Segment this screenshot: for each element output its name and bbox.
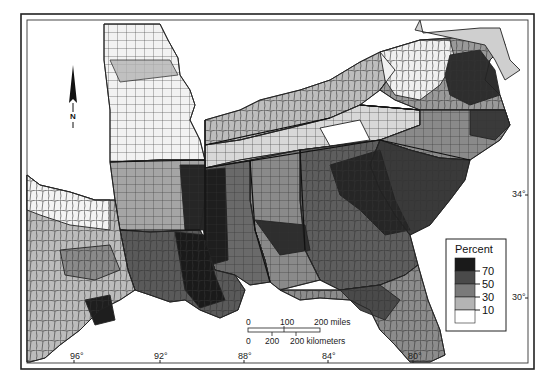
- north-label: N: [70, 112, 76, 121]
- lon-92: 92°: [154, 351, 168, 361]
- scale-km-label: 200 kilometers: [290, 336, 345, 346]
- lat-30: 30°: [512, 292, 526, 302]
- choropleth-map: N 0 100 200 miles 0 200 200 kilometers 9…: [0, 0, 556, 383]
- scale-miles-100: 100: [280, 317, 294, 327]
- legend-tick-30: 30: [482, 291, 494, 303]
- legend-swatch-over-70: [455, 258, 475, 271]
- legend-swatch-30-50: [455, 284, 475, 297]
- lon-80: 80°: [408, 351, 422, 361]
- scale-miles-200: 200 miles: [314, 317, 350, 327]
- lat-34: 34°: [512, 189, 526, 199]
- legend-tick-10: 10: [482, 304, 494, 316]
- legend-tick-50: 50: [482, 278, 494, 290]
- scale-miles-0: 0: [246, 317, 251, 327]
- legend-swatch-50-70: [455, 271, 475, 284]
- scale-km-200: 200: [265, 336, 279, 346]
- legend-swatch-under-10: [455, 310, 475, 323]
- scale-km-0: 0: [246, 336, 251, 346]
- lon-96: 96°: [70, 351, 84, 361]
- lon-84: 84°: [322, 351, 336, 361]
- legend: Percent 70 50 30 10: [446, 239, 506, 331]
- lon-88: 88°: [238, 351, 252, 361]
- legend-tick-70: 70: [482, 265, 494, 277]
- legend-swatch-10-30: [455, 297, 475, 310]
- legend-title: Percent: [455, 243, 493, 255]
